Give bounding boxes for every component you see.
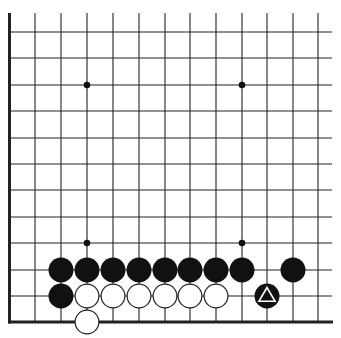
star-point-icon [84, 82, 91, 89]
star-point-icon [239, 240, 246, 247]
black-stone[interactable] [101, 258, 126, 283]
white-stone[interactable] [178, 284, 202, 308]
white-stone[interactable] [204, 284, 228, 308]
star-point-icon [239, 82, 246, 89]
black-stone[interactable] [178, 258, 203, 283]
star-point-icon [84, 240, 91, 247]
go-board[interactable] [0, 0, 341, 338]
black-stone[interactable] [230, 258, 255, 283]
black-stone[interactable] [49, 284, 74, 309]
black-stone[interactable] [153, 258, 178, 283]
white-stone[interactable] [75, 284, 99, 308]
black-stone[interactable] [281, 258, 306, 283]
white-stone[interactable] [127, 284, 151, 308]
black-stone[interactable] [204, 258, 229, 283]
white-stone[interactable] [153, 284, 177, 308]
white-stone[interactable] [75, 310, 99, 334]
black-stone[interactable] [127, 258, 152, 283]
black-stone[interactable] [75, 258, 100, 283]
go-board-canvas[interactable] [0, 0, 341, 338]
black-stone[interactable] [49, 258, 74, 283]
white-stone[interactable] [101, 284, 125, 308]
